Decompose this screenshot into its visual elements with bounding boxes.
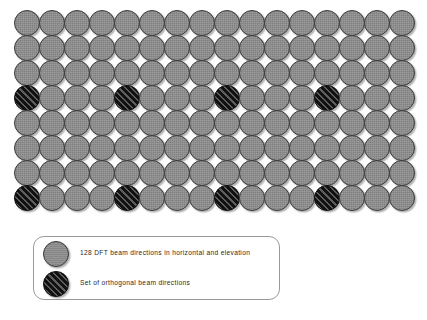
legend-swatch-orthogonal-beams-icon [43, 271, 69, 297]
orthogonal-beam-circle [114, 85, 140, 111]
dft-beam-circle [89, 35, 115, 61]
dft-beam-circle [239, 85, 265, 111]
dft-beam-circle [314, 110, 340, 136]
dft-beam-circle [364, 60, 390, 86]
dft-beam-circle [239, 10, 265, 36]
dft-beam-circle [14, 160, 40, 186]
dft-beam-circle [89, 110, 115, 136]
dft-beam-circle [39, 160, 65, 186]
dft-beam-circle [264, 110, 290, 136]
dft-beam-circle [114, 160, 140, 186]
dft-beam-circle [139, 35, 165, 61]
dft-beam-circle [214, 10, 240, 36]
dft-beam-circle [314, 35, 340, 61]
dft-beam-circle [139, 160, 165, 186]
dft-beam-circle [364, 160, 390, 186]
dft-beam-circle [389, 60, 415, 86]
dft-beam-circle [339, 85, 365, 111]
dft-beam-circle [114, 110, 140, 136]
dft-beam-circle [264, 35, 290, 61]
dft-beam-circle [139, 135, 165, 161]
dft-beam-circle [139, 10, 165, 36]
dft-beam-circle [89, 10, 115, 36]
orthogonal-beam-circle [314, 85, 340, 111]
dft-beam-circle [139, 110, 165, 136]
orthogonal-beam-circle [214, 85, 240, 111]
dft-beam-circle [164, 10, 190, 36]
dft-beam-circle [264, 10, 290, 36]
orthogonal-beam-circle [214, 185, 240, 211]
dft-beam-circle [39, 60, 65, 86]
dft-beam-circle [289, 85, 315, 111]
dft-beam-circle [189, 110, 215, 136]
dft-beam-circle [264, 135, 290, 161]
legend-panel: 128 DFT beam directions in horizontal an… [33, 236, 280, 300]
dft-beam-circle [189, 10, 215, 36]
dft-beam-circle [14, 135, 40, 161]
dft-beam-circle [164, 110, 190, 136]
dft-beam-circle [339, 35, 365, 61]
dft-beam-circle [389, 85, 415, 111]
dft-beam-circle [189, 160, 215, 186]
dft-beam-circle [239, 135, 265, 161]
dft-beam-circle [214, 160, 240, 186]
dft-beam-circle [339, 160, 365, 186]
dft-beam-circle [14, 35, 40, 61]
dft-beam-circle [364, 10, 390, 36]
legend-item-dft-beams: 128 DFT beam directions in horizontal an… [34, 239, 279, 269]
dft-beam-circle [164, 135, 190, 161]
dft-beam-circle [164, 85, 190, 111]
dft-beam-circle [64, 85, 90, 111]
dft-beam-circle [364, 110, 390, 136]
legend-label-orthogonal-beams: Set of orthogonal beam directions [80, 278, 190, 288]
dft-beam-circle [239, 110, 265, 136]
dft-beam-circle [239, 160, 265, 186]
dft-beam-circle [39, 185, 65, 211]
dft-beam-circle [364, 135, 390, 161]
dft-beam-circle [339, 60, 365, 86]
dft-beam-circle [89, 60, 115, 86]
dft-beam-circle [264, 185, 290, 211]
dft-beam-circle [139, 185, 165, 211]
dft-beam-circle [239, 35, 265, 61]
orthogonal-beam-circle [314, 185, 340, 211]
dft-beam-circle [289, 110, 315, 136]
dft-beam-circle [39, 135, 65, 161]
dft-beam-circle [214, 35, 240, 61]
dft-beam-circle [14, 110, 40, 136]
dft-beam-circle [389, 110, 415, 136]
orthogonal-beam-circle [14, 185, 40, 211]
beam-direction-grid [0, 0, 427, 232]
dft-beam-circle [364, 185, 390, 211]
dft-beam-circle [39, 35, 65, 61]
dft-beam-circle [389, 10, 415, 36]
dft-beam-circle [14, 60, 40, 86]
dft-beam-circle [389, 135, 415, 161]
dft-beam-circle [339, 110, 365, 136]
dft-beam-circle [389, 185, 415, 211]
dft-beam-circle [289, 35, 315, 61]
dft-beam-circle [289, 185, 315, 211]
dft-beam-circle [289, 135, 315, 161]
dft-beam-circle [39, 110, 65, 136]
dft-beam-circle [289, 60, 315, 86]
dft-beam-circle [64, 110, 90, 136]
dft-beam-circle [114, 60, 140, 86]
dft-beam-circle [89, 160, 115, 186]
dft-beam-circle [239, 185, 265, 211]
dft-beam-circle [314, 10, 340, 36]
dft-beam-circle [114, 10, 140, 36]
figure-canvas: 128 DFT beam directions in horizontal an… [0, 0, 427, 320]
dft-beam-circle [89, 135, 115, 161]
dft-beam-circle [239, 60, 265, 86]
dft-beam-circle [164, 185, 190, 211]
dft-beam-circle [64, 135, 90, 161]
dft-beam-circle [189, 60, 215, 86]
dft-beam-circle [289, 160, 315, 186]
dft-beam-circle [189, 35, 215, 61]
dft-beam-circle [14, 10, 40, 36]
legend-item-orthogonal-beams: Set of orthogonal beam directions [34, 269, 279, 299]
dft-beam-circle [389, 160, 415, 186]
dft-beam-circle [39, 85, 65, 111]
dft-beam-circle [214, 110, 240, 136]
